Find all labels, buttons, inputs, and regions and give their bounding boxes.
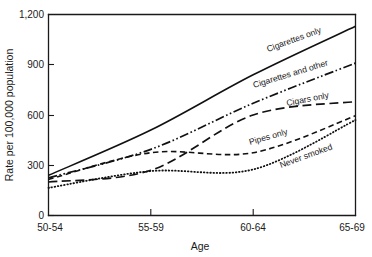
y-tick-label-300: 300 (27, 160, 44, 171)
x-tick-marks (151, 209, 253, 216)
series-line-cigars-only (49, 102, 356, 182)
series-annotations: Cigarettes only Cigarettes and other Cig… (248, 25, 334, 170)
x-tick-label-50-54: 50-54 (37, 222, 63, 233)
x-tick-label-55-59: 55-59 (138, 222, 164, 233)
y-tick-label-900: 900 (27, 59, 44, 70)
series-line-cigarettes-and-other (49, 63, 356, 178)
x-axis-title: Age (191, 240, 210, 252)
x-tick-label-65-69: 65-69 (339, 222, 365, 233)
y-axis-title: Rate per 100,000 population (3, 49, 15, 182)
series-label-cigarettes-only: Cigarettes only (265, 25, 323, 54)
series-label-never-smoked: Never smoked (278, 141, 334, 169)
series-label-pipes-only: Pipes only (248, 126, 290, 147)
line-chart: 1,200 900 600 300 0 50-54 55-59 60-64 65… (0, 0, 372, 257)
series-line-pipes-only (49, 116, 356, 180)
y-tick-label-600: 600 (27, 110, 44, 121)
series-label-cigarettes-and-other: Cigarettes and other (252, 58, 330, 90)
axes (49, 15, 356, 216)
chart-container: 1,200 900 600 300 0 50-54 55-59 60-64 65… (0, 0, 372, 257)
y-tick-marks (49, 65, 55, 216)
y-tick-label-0: 0 (38, 210, 44, 221)
series-lines (49, 26, 356, 188)
y-tick-label-1200: 1,200 (19, 9, 44, 20)
x-tick-label-60-64: 60-64 (240, 222, 266, 233)
